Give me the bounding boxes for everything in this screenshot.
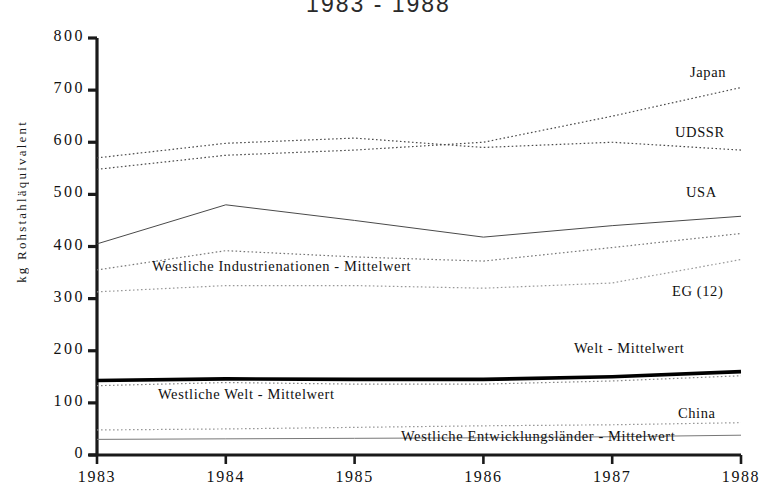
series-label: China: [678, 405, 716, 422]
x-axis-tick-label: 1987: [567, 468, 657, 486]
x-axis-tick-label: 1986: [438, 468, 528, 486]
series-label: UDSSR: [675, 124, 725, 141]
y-axis-tick-label: 400: [27, 236, 85, 254]
series-line: [97, 205, 741, 244]
series-label: Welt - Mittelwert: [574, 340, 685, 357]
series-label: Westliche Welt - Mittelwert: [158, 386, 335, 403]
series-label: Japan: [690, 64, 726, 81]
x-axis-tick-label: 1988: [696, 468, 763, 486]
y-axis-tick-label: 100: [27, 392, 85, 410]
x-axis-tick-label: 1985: [310, 468, 400, 486]
series-label: USA: [686, 184, 717, 201]
y-axis-tick-label: 700: [27, 79, 85, 97]
y-axis-tick-label: 300: [27, 288, 85, 306]
y-axis-tick-label: 800: [27, 27, 85, 45]
x-axis-tick-label: 1983: [52, 468, 142, 486]
y-axis-tick-label: 200: [27, 340, 85, 358]
series-line: [97, 88, 741, 170]
y-axis-tick-label: 0: [27, 444, 85, 462]
series-label: Westliche Industrienationen - Mittelwert: [152, 258, 411, 275]
series-label: Westliche Entwicklungsländer - Mittelwer…: [401, 428, 675, 445]
series-line: [97, 138, 741, 158]
y-axis-tick-label: 500: [27, 183, 85, 201]
x-axis-tick-label: 1984: [181, 468, 271, 486]
series-label: EG (12): [672, 283, 723, 300]
series-line: [97, 372, 741, 381]
y-axis-tick-label: 600: [27, 131, 85, 149]
